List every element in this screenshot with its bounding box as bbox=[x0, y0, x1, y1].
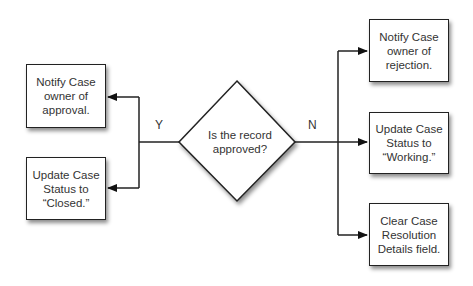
action-update-status-closed: Update Case Status to “Closed.” bbox=[26, 157, 106, 220]
yes-label: Y bbox=[155, 118, 163, 132]
action-notify-rejection: Notify Case owner of rejection. bbox=[369, 19, 449, 82]
action-clear-resolution: Clear Case Resolution Details field. bbox=[369, 203, 449, 266]
decision-text: Is the record approved? bbox=[190, 128, 290, 156]
action-update-status-working: Update Case Status to “Working.” bbox=[369, 112, 449, 174]
no-label: N bbox=[308, 118, 317, 132]
action-notify-approval: Notify Case owner of approval. bbox=[26, 64, 106, 128]
